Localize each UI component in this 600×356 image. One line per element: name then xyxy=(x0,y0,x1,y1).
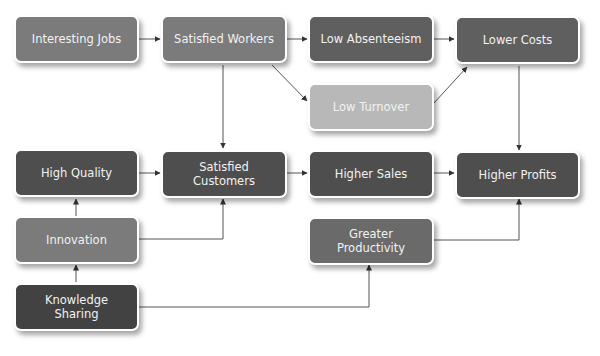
node-higher-profits[interactable]: Higher Profits xyxy=(455,151,580,199)
node-high-quality[interactable]: High Quality xyxy=(14,149,139,197)
node-label: Satisfied Workers xyxy=(174,32,274,46)
node-low-turnover[interactable]: Low Turnover xyxy=(308,83,434,131)
edge-low-turnover-to-lower-costs xyxy=(434,67,467,103)
node-satisfied-workers[interactable]: Satisfied Workers xyxy=(161,15,287,63)
edge-knowledge-sharing-to-greater-productivity xyxy=(139,265,369,307)
node-knowledge-sharing[interactable]: Knowledge Sharing xyxy=(14,283,139,331)
node-label: Low Absenteeism xyxy=(321,32,422,46)
node-label: Greater Productivity xyxy=(314,227,428,255)
node-interesting-jobs[interactable]: Interesting Jobs xyxy=(14,15,139,63)
node-low-absenteeism[interactable]: Low Absenteeism xyxy=(308,15,434,63)
node-label: Lower Costs xyxy=(483,33,553,47)
diagram-canvas: Interesting Jobs Satisfied Workers Low A… xyxy=(0,0,600,356)
node-greater-productivity[interactable]: Greater Productivity xyxy=(308,217,434,265)
node-label: Innovation xyxy=(46,233,107,247)
node-label: High Quality xyxy=(41,166,112,180)
node-label: Satisfied Customers xyxy=(167,160,281,188)
node-lower-costs[interactable]: Lower Costs xyxy=(455,16,580,64)
node-higher-sales[interactable]: Higher Sales xyxy=(308,150,434,198)
edge-innovation-to-satisfied-customers xyxy=(139,199,223,239)
edge-satisfied-workers-to-low-turnover xyxy=(272,65,307,101)
node-label: Knowledge Sharing xyxy=(37,293,117,321)
node-label: Interesting Jobs xyxy=(32,32,121,46)
node-satisfied-customers[interactable]: Satisfied Customers xyxy=(161,150,287,198)
node-label: Low Turnover xyxy=(333,100,409,114)
node-innovation[interactable]: Innovation xyxy=(14,216,139,264)
edge-greater-productivity-to-higher-profits xyxy=(434,199,519,240)
node-label: Higher Sales xyxy=(335,167,408,181)
node-label: Higher Profits xyxy=(479,168,557,182)
